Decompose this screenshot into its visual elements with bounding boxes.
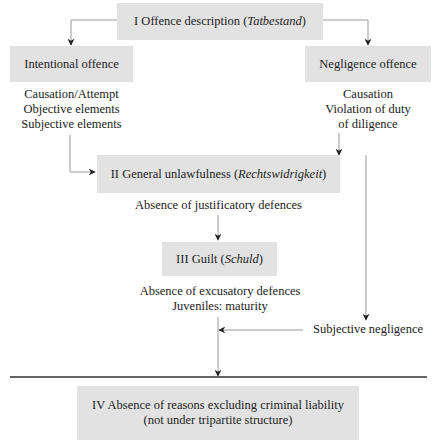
intentional-offence-box: Intentional offence: [10, 46, 133, 82]
stage-3-label: III Guilt (: [176, 252, 225, 266]
stage-2-close: ): [322, 167, 326, 181]
element-violation-duty: Violation of duty: [305, 102, 431, 117]
stage-3-close: ): [259, 252, 263, 266]
element-objective: Objective elements: [10, 102, 133, 117]
excusatory-defences-note: Absence of excusatory defences: [120, 284, 320, 299]
negligence-offence-label: Negligence offence: [319, 57, 416, 72]
negligence-elements: Causation Violation of duty of diligence: [305, 87, 431, 132]
juveniles-maturity-note: Juveniles: maturity: [120, 299, 320, 314]
guilt-notes: Absence of excusatory defences Juveniles…: [120, 284, 320, 314]
guilt-box: III Guilt (Schuld): [162, 242, 277, 276]
stage-3-term: Schuld: [225, 252, 259, 266]
stage-2-term: Rechtswidrigkeit: [238, 167, 322, 181]
stage-1-close: ): [302, 14, 306, 28]
offence-description-box: I Offence description (Tatbestand): [117, 3, 323, 40]
element-subjective: Subjective elements: [10, 117, 133, 132]
general-unlawfulness-box: II General unlawfulness (Rechtswidrigkei…: [97, 155, 340, 193]
criminal-liability-box: IV Absence of reasons excluding criminal…: [77, 386, 359, 440]
element-causation: Causation: [305, 87, 431, 102]
stage-2-label: II General unlawfulness (: [111, 167, 238, 181]
stage-1-term: Tatbestand: [247, 14, 301, 28]
stage-4-line-1: IV Absence of reasons excluding criminal…: [92, 398, 344, 413]
negligence-offence-box: Negligence offence: [305, 46, 431, 82]
stage-1-label: I Offence description (: [134, 14, 247, 28]
intentional-offence-label: Intentional offence: [24, 57, 119, 72]
intentional-elements: Causation/Attempt Objective elements Sub…: [10, 87, 133, 132]
justificatory-defences-note: Absence of justificatory defences: [97, 198, 340, 213]
element-causation-attempt: Causation/Attempt: [10, 87, 133, 102]
subjective-negligence-label: Subjective negligence: [305, 322, 431, 337]
element-of-diligence: of diligence: [305, 117, 431, 132]
stage-4-line-2: (not under tripartite structure): [144, 413, 293, 428]
